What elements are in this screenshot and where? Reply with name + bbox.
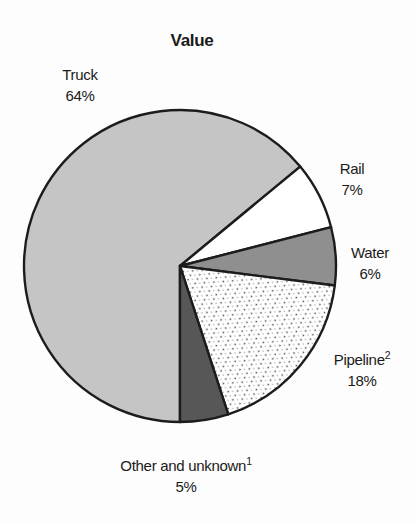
slice-label-water-pct: 6%	[351, 263, 389, 284]
slice-label-water: Water 6%	[351, 242, 389, 284]
slice-label-rail-name: Rail	[340, 158, 365, 179]
slice-label-other-pct: 5%	[120, 476, 251, 497]
slice-label-pipeline-pct: 18%	[334, 370, 391, 391]
slice-label-other-name: Other and unknown1	[120, 455, 251, 476]
slice-label-water-name: Water	[351, 242, 389, 263]
slice-label-rail-pct: 7%	[340, 179, 365, 200]
slice-label-pipeline-name: Pipeline2	[334, 349, 391, 370]
slice-label-pipeline: Pipeline2 18%	[334, 349, 391, 391]
slice-label-truck: Truck 64%	[62, 64, 97, 106]
slice-label-other-and-unknown: Other and unknown1 5%	[120, 455, 251, 497]
slice-label-rail: Rail 7%	[340, 158, 365, 200]
pie-chart-figure: Value Truck 64% Rail 7% Water 6% Pipelin…	[0, 0, 417, 523]
slice-label-truck-name: Truck	[62, 64, 97, 85]
footnote-marker-1: 1	[246, 455, 252, 467]
slice-label-truck-pct: 64%	[62, 85, 97, 106]
footnote-marker-2: 2	[385, 349, 391, 361]
